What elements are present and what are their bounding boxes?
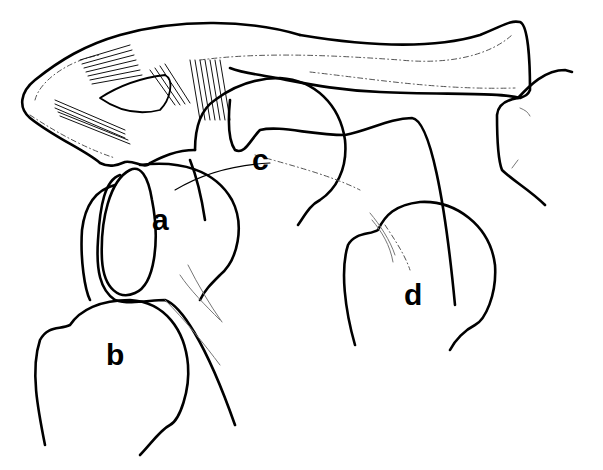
- label-b: b: [106, 340, 124, 370]
- label-c: c: [252, 145, 269, 175]
- humeral-head-a-outline: [102, 160, 270, 300]
- humeral-head-c-outline: [195, 78, 455, 305]
- diagram-drawing: [0, 0, 603, 470]
- label-a: a: [152, 205, 169, 235]
- label-d: d: [404, 280, 422, 310]
- shoulder-diagram: a b c d: [0, 0, 603, 470]
- scapula-outline: [497, 70, 572, 205]
- humeral-head-b-outline: [35, 300, 188, 455]
- humeral-head-d-outline: [344, 202, 495, 350]
- clavicle-acromion-outline: [22, 22, 530, 166]
